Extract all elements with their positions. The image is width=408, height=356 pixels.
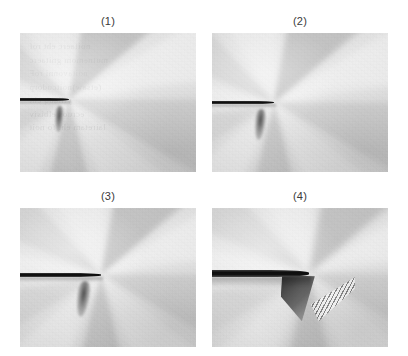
panel-3-label: (3) (20, 189, 196, 203)
panel-3-crack-shadow (20, 277, 103, 283)
panel-4-crack-shadow (212, 277, 311, 287)
figure-panel-1: (1) noitaerc eht rof mutnemom gnitaerc n… (20, 14, 196, 172)
figure-panel-grid: (1) noitaerc eht rof mutnemom gnitaerc n… (0, 0, 408, 356)
panel-1-crack-shadow (20, 101, 71, 105)
panel-2-crack-line (212, 101, 274, 104)
panel-4-label: (4) (212, 189, 388, 203)
figure-panel-2: (2) (212, 14, 388, 172)
panel-2-label: (2) (212, 14, 388, 28)
figure-panel-3: (3) (20, 189, 196, 347)
figure-panel-4: (4) (212, 189, 388, 347)
panel-1-label: (1) (20, 14, 196, 28)
panel-3-crack-line (20, 273, 101, 277)
panel-3-image (20, 208, 196, 347)
panel-4-crack-line (212, 270, 309, 277)
panel-2-image (212, 33, 388, 172)
panel-4-image (212, 208, 388, 347)
panel-2-crack-shadow (212, 104, 276, 108)
panel-1-image: noitaerc eht rof mutnemom gnitaerc noita… (20, 33, 196, 172)
